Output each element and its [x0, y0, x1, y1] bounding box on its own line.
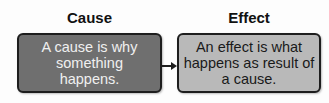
arrow-right-icon	[162, 61, 177, 71]
effect-box: An effect is what happens as result of a…	[177, 33, 321, 93]
cause-heading: Cause	[17, 9, 162, 26]
effect-heading: Effect	[177, 9, 321, 26]
cause-box: A cause is why something happens.	[17, 33, 162, 93]
effect-text: An effect is what happens as result of a…	[183, 39, 315, 87]
cause-text: A cause is why something happens.	[25, 39, 154, 87]
